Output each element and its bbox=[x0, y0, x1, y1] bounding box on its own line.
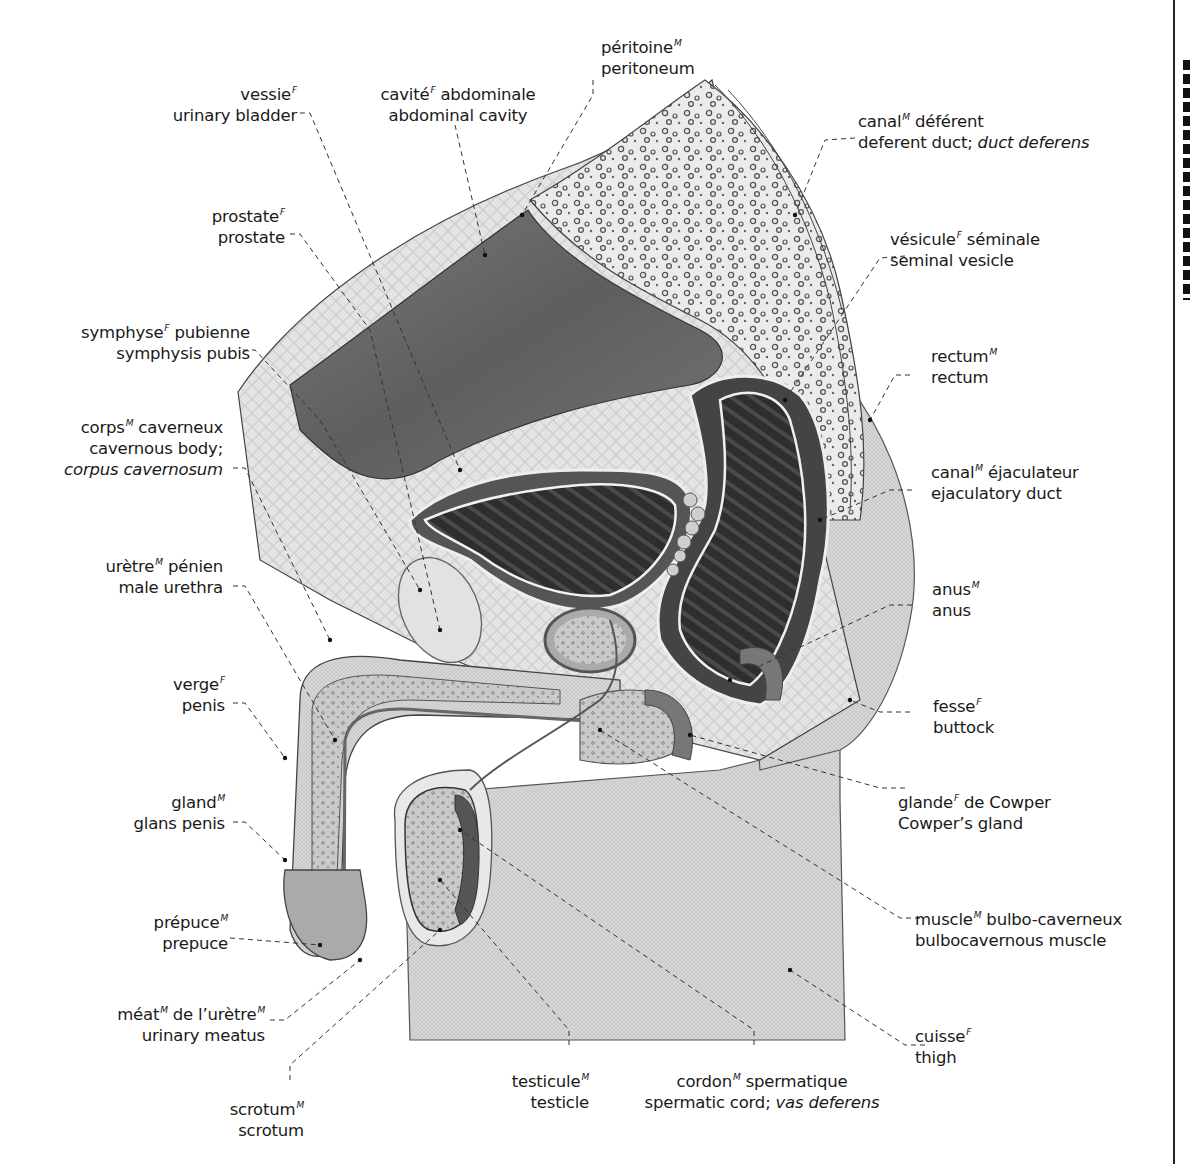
label-cavernous-body: corpsM caverneux cavernous body; corpus … bbox=[64, 413, 223, 480]
page-margin-rule bbox=[1173, 0, 1175, 1164]
label-glans-penis: glandM glans penis bbox=[133, 788, 225, 834]
label-peritoneum: péritoineM peritoneum bbox=[601, 33, 695, 79]
label-male-urethra: urètreM pénien male urethra bbox=[105, 552, 223, 598]
label-seminal-vesicle: vésiculeF séminale seminal vesicle bbox=[890, 225, 1040, 271]
label-penis: vergeF penis bbox=[173, 670, 225, 716]
label-buttock: fesseF buttock bbox=[933, 692, 994, 738]
label-prostate: prostateF prostate bbox=[212, 202, 285, 248]
label-symphysis-pubis: symphyseF pubienne symphysis pubis bbox=[81, 318, 250, 364]
label-scrotum: scrotumM scrotum bbox=[230, 1095, 304, 1141]
label-anus: anusM anus bbox=[932, 575, 979, 621]
label-prepuce: prépuceM prepuce bbox=[154, 908, 228, 954]
glans bbox=[284, 870, 367, 960]
label-abdominal-cavity: cavitéF abdominale abdominal cavity bbox=[363, 80, 553, 126]
label-thigh: cuisseF thigh bbox=[915, 1022, 971, 1068]
label-ejaculatory-duct: canalM éjaculateur ejaculatory duct bbox=[931, 458, 1079, 504]
label-bulbocavernous-muscle: muscleM bulbo-caverneux bulbocavernous m… bbox=[915, 905, 1122, 951]
label-cowpers-gland: glandeF de Cowper Cowper’s gland bbox=[898, 788, 1051, 834]
label-spermatic-cord: cordonM spermatique spermatic cord; vas … bbox=[632, 1067, 892, 1113]
label-urinary-bladder: vessieF urinary bladder bbox=[173, 80, 297, 126]
label-testicle: testiculeM testicle bbox=[512, 1067, 589, 1113]
label-rectum: rectumM rectum bbox=[931, 342, 997, 388]
label-urinary-meatus: méatM de l’urètreM urinary meatus bbox=[117, 1000, 265, 1046]
page-edge-tab bbox=[1183, 60, 1190, 300]
label-deferent-duct: canalM déférent deferent duct; duct defe… bbox=[858, 107, 1089, 153]
